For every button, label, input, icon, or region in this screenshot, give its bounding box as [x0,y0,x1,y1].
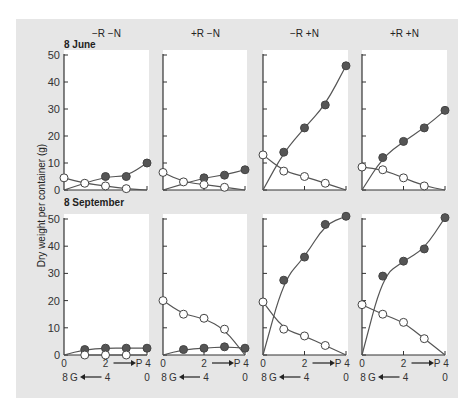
open-marker [200,314,208,322]
y-tick-label: 10 [48,322,60,334]
arrow-left-icon [279,374,284,380]
arrow-left-icon [80,374,85,380]
y-tick-label: 20 [48,130,60,142]
open-marker [321,341,329,349]
open-marker [420,335,428,343]
x-tick-label-G: 8 [360,372,366,383]
y-tick-label: 10 [48,157,60,169]
plot-area [263,50,348,190]
filled-marker [143,159,151,167]
open-marker [358,301,366,309]
x-axis-label-P: P [234,358,241,369]
open-marker [122,185,130,193]
x-tick-label-G: 4 [203,372,209,383]
open-marker [400,174,408,182]
filled-marker [301,124,309,132]
x-tick-label-G: 4 [304,372,310,383]
x-tick-label-P: 2 [103,358,109,369]
y-tick-label: 50 [48,213,60,225]
column-header-minusR-minusN: −R −N [92,28,121,39]
filled-marker [102,173,110,181]
x-axis-label-G: G [70,372,78,383]
open-marker [379,310,387,318]
filled-marker [400,137,408,145]
filled-marker [200,344,208,352]
column-header-plusR-minusN: +R −N [191,28,220,39]
x-tick-label-G: 0 [442,372,448,383]
open-marker [102,182,110,190]
open-marker [301,173,309,181]
open-marker [159,168,167,176]
y-axis-label: Dry weight per container (g) [36,121,47,291]
open-marker [221,325,229,333]
row-label-june: 8 June [64,39,96,50]
x-tick-label-G: 0 [343,372,349,383]
x-tick-label-G: 0 [242,372,248,383]
open-marker [122,351,130,359]
x-axis-label-G: G [368,372,376,383]
x-tick-label-G: 8 [261,372,267,383]
plot-area [163,50,247,190]
x-axis-label-P: P [434,358,441,369]
y-tick-label: 50 [48,49,60,61]
filled-marker [379,154,387,162]
x-axis-label-G: G [169,372,177,383]
y-tick-label: 20 [48,295,60,307]
x-tick-label-G: 4 [403,372,409,383]
filled-marker [420,124,428,132]
x-axis-label-G: G [269,372,277,383]
open-marker [301,332,309,340]
x-tick-label-P: 4 [243,358,249,369]
filled-marker [301,253,309,261]
filled-marker [122,173,130,181]
open-marker [321,179,329,187]
open-marker [200,181,208,189]
filled-marker [180,346,188,354]
arrow-left-icon [179,374,184,380]
open-marker [81,351,89,359]
filled-marker [143,344,151,352]
filled-marker [221,343,229,351]
y-tick-label: 40 [48,76,60,88]
filled-marker [321,101,329,109]
open-marker [221,183,229,191]
filled-marker [280,148,288,156]
plot-area [362,214,447,355]
x-tick-label-P: 2 [401,358,407,369]
open-marker [180,178,188,186]
x-axis-label-P: P [335,358,342,369]
filled-marker [342,212,350,220]
filled-marker [241,166,249,174]
y-tick-label: 30 [48,103,60,115]
x-tick-label-P: 0 [260,358,266,369]
x-tick-label-P: 4 [145,358,151,369]
open-marker [81,179,89,187]
open-marker [60,174,68,182]
open-marker [259,298,267,306]
x-tick-label-P: 2 [201,358,207,369]
open-marker [358,163,366,171]
filled-marker [221,171,229,179]
y-tick-label: 30 [48,267,60,279]
filled-marker [241,344,249,352]
open-marker [280,167,288,175]
y-tick-label: 40 [48,240,60,252]
column-header-plusR-plusN: +R +N [390,28,419,39]
row-label-september: 8 September [64,197,124,208]
x-tick-label-P: 4 [344,358,350,369]
x-tick-label-P: 0 [160,358,166,369]
x-tick-label-P: 0 [359,358,365,369]
x-tick-label-G: 8 [161,372,167,383]
filled-marker [280,276,288,284]
open-marker [420,182,428,190]
x-tick-label-P: 2 [302,358,308,369]
y-tick-label: 0 [54,184,60,196]
filled-marker [420,245,428,253]
x-tick-label-G: 4 [105,372,111,383]
open-marker [280,325,288,333]
filled-marker [379,272,387,280]
open-marker [180,310,188,318]
open-marker [379,166,387,174]
x-tick-label-P: 4 [443,358,449,369]
column-header-minusR-plusN: −R +N [290,28,319,39]
